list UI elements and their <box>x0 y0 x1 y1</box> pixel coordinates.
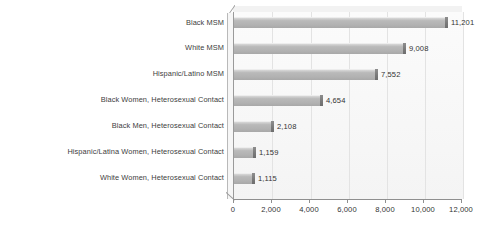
gridline <box>425 12 426 199</box>
bar-end-cap <box>445 17 448 28</box>
gridline <box>349 12 350 199</box>
bar-end-cap <box>403 43 406 54</box>
x-axis-tick <box>423 199 424 203</box>
value-label: 1,159 <box>259 148 279 157</box>
x-axis-tick <box>271 199 272 203</box>
bar <box>234 173 255 184</box>
bar-end-cap <box>252 173 255 184</box>
x-axis-tick <box>385 199 386 203</box>
value-label: 7,552 <box>381 70 401 79</box>
value-label: 2,108 <box>277 122 297 131</box>
x-axis-tick <box>233 199 234 203</box>
bar-chart: Black MSM White MSM Hispanic/Latino MSM … <box>0 0 501 232</box>
category-label: White MSM <box>0 43 224 52</box>
x-axis-tick-label: 12,000 <box>439 205 483 215</box>
bar <box>234 95 323 106</box>
gridline <box>387 12 388 199</box>
x-axis-tick <box>347 199 348 203</box>
bar <box>234 69 378 80</box>
value-label: 1,115 <box>258 174 277 183</box>
value-label: 9,008 <box>409 44 429 53</box>
x-axis-tick-label: 2,000 <box>251 205 291 215</box>
bar <box>234 147 256 158</box>
bar-end-cap <box>253 147 256 158</box>
bar <box>234 17 448 28</box>
bar-end-cap <box>375 69 378 80</box>
value-label: 4,654 <box>326 96 346 105</box>
x-axis-tick <box>309 199 310 203</box>
bar-end-cap <box>271 121 274 132</box>
value-label: 11,201 <box>451 18 474 27</box>
category-label: White Women, Heterosexual Contact <box>0 173 224 182</box>
x-axis-tick-label: 6,000 <box>327 205 367 215</box>
category-label: Black MSM <box>0 18 224 27</box>
plot-area <box>233 12 463 199</box>
gridline <box>463 12 464 199</box>
bar-end-cap <box>320 95 323 106</box>
category-label: Black Men, Heterosexual Contact <box>0 121 224 130</box>
x-axis-tick <box>461 199 462 203</box>
category-axis-labels: Black MSM White MSM Hispanic/Latino MSM … <box>0 0 229 199</box>
bar <box>234 121 274 132</box>
bar <box>234 43 406 54</box>
x-axis-tick-label: 0 <box>213 205 253 215</box>
category-label: Hispanic/Latina Women, Heterosexual Cont… <box>0 147 224 156</box>
category-label: Black Women, Heterosexual Contact <box>0 95 224 104</box>
x-axis-tick-label: 4,000 <box>289 205 329 215</box>
category-label: Hispanic/Latino MSM <box>0 69 224 78</box>
x-axis-tick-label: 8,000 <box>365 205 405 215</box>
